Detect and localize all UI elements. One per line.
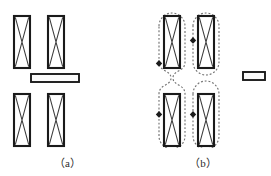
panel-b-drawing (135, 0, 271, 148)
coil-top-right (48, 16, 64, 68)
mover-bar (31, 74, 79, 82)
panel-b: （b） (135, 0, 271, 176)
coil-bottom-right (198, 94, 214, 146)
panel-b-svg (135, 0, 271, 148)
panel-a-svg (0, 0, 135, 148)
coil-top-left (164, 16, 180, 68)
flux-arrow-upper-left (156, 60, 162, 67)
mover-bar (243, 72, 265, 80)
mover-bar-body (31, 74, 79, 82)
coil-top-left (14, 16, 30, 68)
mover-bar-body (243, 72, 265, 80)
panel-b-caption: （b） (135, 154, 271, 170)
figure-container: （a） (0, 0, 271, 176)
panel-a-drawing (0, 0, 135, 148)
coil-top-right (198, 16, 214, 68)
coil-bottom-left (164, 94, 180, 146)
flux-arrow-lower-left (156, 111, 162, 118)
flux-arrow-lower-right (190, 111, 196, 118)
flux-arrow-upper-right (190, 37, 196, 44)
coil-bottom-right (48, 94, 64, 146)
panel-a: （a） (0, 0, 135, 176)
panel-a-caption: （a） (0, 154, 135, 170)
coil-bottom-left (14, 94, 30, 146)
